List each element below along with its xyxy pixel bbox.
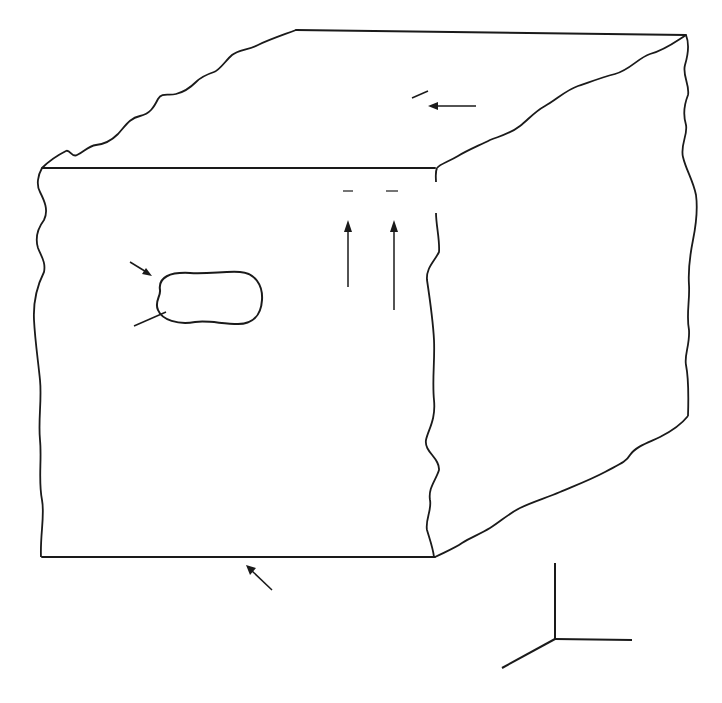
rho-sb-plus-tick [412, 91, 428, 98]
y-axis [555, 639, 632, 640]
top-right-broken-edge [437, 35, 686, 168]
front-right-broken-edge [426, 168, 439, 557]
coordinate-axes [502, 563, 632, 668]
front-left-broken-edge [34, 168, 46, 557]
rho-sb-minus-arrow [251, 570, 272, 590]
delta-v-volume-outline [157, 272, 262, 324]
top-left-broken-edge [42, 30, 296, 168]
back-top-edge [296, 30, 686, 35]
side-right-broken-edge [682, 35, 696, 416]
dielectric-block [34, 30, 697, 557]
polarization-vector [343, 191, 353, 287]
rho-sb-plus-arrowhead [428, 102, 438, 110]
delta-v-arrowhead [142, 268, 152, 276]
applied-field-vector [386, 191, 398, 310]
x-axis [502, 639, 555, 668]
polarized-dielectric-diagram [0, 0, 722, 703]
side-bottom-broken-edge [435, 416, 688, 557]
rho-vb-pointer [134, 312, 166, 326]
